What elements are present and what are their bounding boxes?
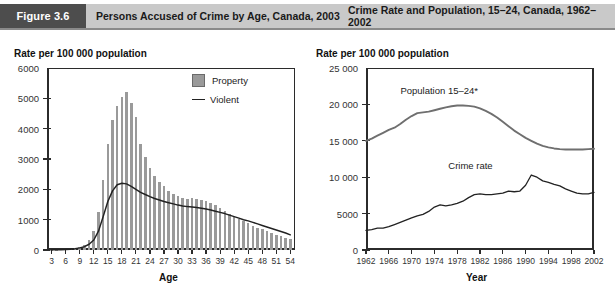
right-y-tick-label: 15 000 — [308, 135, 358, 146]
left-x-tick-label: 24 — [145, 256, 154, 266]
left-x-tick — [290, 250, 291, 254]
crime-rate-line — [366, 175, 594, 230]
left-x-tick-label: 51 — [272, 256, 281, 266]
right-x-tick-label: 1986 — [493, 256, 512, 266]
left-x-tick-label: 48 — [258, 256, 267, 266]
left-x-tick — [135, 250, 136, 254]
right-x-tick-label: 1962 — [357, 256, 376, 266]
population-annotation: Population 15–24* — [400, 85, 478, 96]
left-y-tick-label: 3000 — [0, 154, 39, 165]
right-x-tick — [411, 250, 412, 254]
left-x-tick — [51, 250, 52, 254]
right-y-tick-label: 5000 — [308, 208, 358, 219]
left-x-tick — [163, 250, 164, 254]
left-x-tick — [205, 250, 206, 254]
right-y-axis-title: Rate per 100 000 population — [316, 48, 449, 59]
left-x-axis-title: Age — [159, 272, 178, 283]
figure-header-bar: Figure 3.6 Persons Accused of Crime by A… — [0, 4, 615, 28]
left-x-tick — [220, 250, 221, 254]
right-x-axis-title: Year — [466, 272, 487, 283]
left-x-tick-label: 27 — [159, 256, 168, 266]
right-chart-panel: Rate per 100 000 population Year 0500010… — [308, 30, 615, 291]
left-y-tick-label: 0 — [0, 245, 39, 256]
left-x-tick — [191, 250, 192, 254]
violent-rate-line — [52, 183, 291, 250]
right-x-tick-label: 1978 — [448, 256, 467, 266]
left-x-tick-label: 54 — [286, 256, 295, 266]
left-x-tick-label: 18 — [117, 256, 126, 266]
right-y-tick-label: 0 — [308, 245, 358, 256]
right-x-tick — [525, 250, 526, 254]
right-y-tick-label: 10 000 — [308, 172, 358, 183]
left-y-tick-label: 4000 — [0, 123, 39, 134]
left-x-tick — [79, 250, 80, 254]
right-y-tick-label: 25 000 — [308, 63, 358, 74]
legend-item-property: Property — [192, 74, 248, 87]
right-x-tick-label: 1994 — [539, 256, 558, 266]
left-x-tick-label: 15 — [103, 256, 112, 266]
right-x-tick-label: 2002 — [585, 256, 604, 266]
violent-line-icon — [192, 99, 205, 100]
left-x-tick — [276, 250, 277, 254]
left-x-tick-label: 3 — [49, 256, 54, 266]
left-x-tick — [262, 250, 263, 254]
left-x-tick-label: 30 — [173, 256, 182, 266]
left-x-tick — [93, 250, 94, 254]
left-x-tick-label: 42 — [229, 256, 238, 266]
right-x-tick — [502, 250, 503, 254]
left-chart-legend: Property Violent — [192, 74, 248, 112]
legend-item-violent: Violent — [192, 94, 248, 105]
left-x-tick-label: 12 — [89, 256, 98, 266]
legend-label-violent: Violent — [210, 94, 239, 105]
right-x-tick-label: 1970 — [402, 256, 421, 266]
left-y-tick-label: 6000 — [0, 63, 39, 74]
figure-number-badge: Figure 3.6 — [0, 4, 86, 28]
right-y-tick-label: 20 000 — [308, 99, 358, 110]
right-x-tick — [479, 250, 480, 254]
left-y-tick-label: 1000 — [0, 214, 39, 225]
left-chart-panel: Rate per 100 000 population Property Vio… — [0, 30, 308, 291]
right-x-tick — [571, 250, 572, 254]
property-swatch-icon — [192, 74, 205, 87]
right-x-tick — [365, 250, 366, 254]
right-x-tick-label: 1974 — [425, 256, 444, 266]
left-violent-line-svg — [47, 68, 295, 250]
left-x-tick-label: 21 — [131, 256, 140, 266]
left-x-tick — [121, 250, 122, 254]
left-chart-title: Persons Accused of Crime by Age, Canada,… — [96, 4, 340, 28]
left-x-tick — [248, 250, 249, 254]
right-x-tick — [457, 250, 458, 254]
right-chart-title: Crime Rate and Population, 15–24, Canada… — [348, 4, 615, 28]
right-x-tick — [388, 250, 389, 254]
legend-label-property: Property — [212, 75, 248, 86]
right-x-tick — [434, 250, 435, 254]
left-x-tick — [107, 250, 108, 254]
left-y-tick-label: 5000 — [0, 93, 39, 104]
right-x-tick-label: 1990 — [516, 256, 535, 266]
left-x-tick-label: 36 — [201, 256, 210, 266]
right-x-tick-label: 1966 — [379, 256, 398, 266]
left-x-tick-label: 6 — [63, 256, 68, 266]
left-x-tick-label: 45 — [243, 256, 252, 266]
right-x-tick — [548, 250, 549, 254]
left-y-axis-title: Rate per 100 000 population — [14, 48, 147, 59]
left-x-tick-label: 39 — [215, 256, 224, 266]
right-x-tick-label: 1998 — [562, 256, 581, 266]
left-plot-area — [47, 68, 295, 250]
right-x-tick — [593, 250, 594, 254]
left-x-tick — [65, 250, 66, 254]
left-x-tick — [234, 250, 235, 254]
left-x-tick — [177, 250, 178, 254]
population-15-24-line — [366, 105, 594, 149]
left-y-tick-label: 2000 — [0, 184, 39, 195]
crime-rate-annotation: Crime rate — [448, 160, 492, 171]
left-x-tick-label: 9 — [77, 256, 82, 266]
right-x-tick-label: 1982 — [471, 256, 490, 266]
left-x-tick-label: 33 — [187, 256, 196, 266]
left-x-tick — [149, 250, 150, 254]
